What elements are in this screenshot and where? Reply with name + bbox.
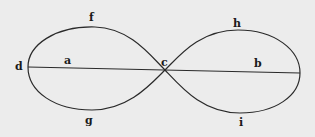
label-b: b	[254, 57, 262, 70]
label-g: g	[85, 114, 93, 127]
label-a: a	[64, 54, 71, 67]
label-f: f	[89, 11, 95, 24]
label-d: d	[15, 60, 23, 73]
label-c: c	[161, 56, 168, 69]
figure-eight-diagram: d a f g c h b i	[0, 0, 315, 137]
label-i: i	[239, 116, 243, 129]
label-h: h	[233, 17, 241, 30]
